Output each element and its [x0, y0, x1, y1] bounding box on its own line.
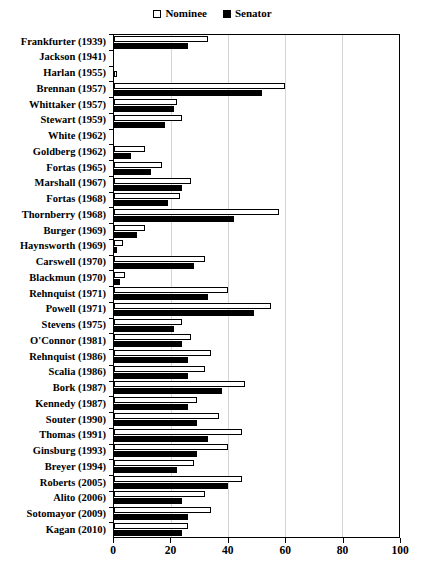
x-axis-tick-label: 0: [110, 545, 116, 557]
bar-senator: [114, 263, 194, 269]
y-axis-label: Souter (1990): [0, 412, 110, 428]
y-axis-label: Breyer (1994): [0, 459, 110, 475]
bar-row: [114, 145, 399, 161]
y-axis-labels: Frankfurter (1939)Jackson (1941)Harlan (…: [0, 34, 110, 538]
y-axis-label: Alito (2006): [0, 491, 110, 507]
bar-chart: Nominee Senator Frankfurter (1939)Jackso…: [0, 0, 425, 583]
legend-swatch-senator-icon: [223, 10, 231, 18]
bar-row: [114, 443, 399, 459]
y-axis-label: Thomas (1991): [0, 428, 110, 444]
bar-nominee: [114, 429, 242, 435]
bar-nominee: [114, 178, 191, 184]
bar-row: [114, 129, 399, 145]
bar-row: [114, 364, 399, 380]
y-axis-label: Haynsworth (1969): [0, 239, 110, 255]
bar-row: [114, 113, 399, 129]
chart-legend: Nominee Senator: [0, 8, 425, 19]
bar-row: [114, 286, 399, 302]
bar-nominee: [114, 334, 191, 340]
bar-senator: [114, 483, 228, 489]
x-axis-tick: [170, 538, 171, 543]
bar-senator: [114, 310, 254, 316]
y-axis-label: Powell (1971): [0, 302, 110, 318]
bar-senator: [114, 247, 117, 253]
bar-nominee: [114, 413, 219, 419]
bar-senator: [114, 530, 182, 536]
bar-senator: [114, 294, 208, 300]
y-axis-label: Frankfurter (1939): [0, 34, 110, 50]
bar-nominee: [114, 303, 271, 309]
bar-nominee: [114, 36, 208, 42]
x-axis-tick-label: 40: [222, 545, 234, 557]
bar-nominee: [114, 476, 242, 482]
bar-nominee: [114, 444, 228, 450]
bar-row: [114, 66, 399, 82]
bar-senator: [114, 216, 234, 222]
y-axis-label: Stevens (1975): [0, 318, 110, 334]
bar-row: [114, 521, 399, 537]
y-axis-label: Kennedy (1987): [0, 396, 110, 412]
bar-row: [114, 255, 399, 271]
bar-nominee: [114, 350, 211, 356]
y-axis-label: White (1962): [0, 129, 110, 145]
legend-label-nominee: Nominee: [165, 8, 207, 19]
bar-nominee: [114, 162, 162, 168]
bar-senator: [114, 373, 188, 379]
bar-senator: [114, 341, 182, 347]
bar-nominee: [114, 507, 211, 513]
y-axis-label: Roberts (2005): [0, 475, 110, 491]
bar-row: [114, 208, 399, 224]
bar-rows: [114, 35, 399, 537]
bar-row: [114, 192, 399, 208]
bar-row: [114, 223, 399, 239]
bar-row: [114, 176, 399, 192]
bar-nominee: [114, 272, 125, 278]
bar-row: [114, 506, 399, 522]
x-axis-tick-label: 100: [391, 545, 408, 557]
y-axis-label: Harlan (1955): [0, 66, 110, 82]
bar-senator: [114, 232, 137, 238]
bar-row: [114, 490, 399, 506]
bar-row: [114, 396, 399, 412]
x-axis-tick-label: 20: [165, 545, 177, 557]
y-axis-label: Brennan (1957): [0, 81, 110, 97]
bar-nominee: [114, 209, 279, 215]
y-axis-label: O'Connor (1981): [0, 333, 110, 349]
bar-senator: [114, 498, 182, 504]
bar-nominee: [114, 319, 182, 325]
y-axis-label: Blackmun (1970): [0, 270, 110, 286]
bar-senator: [114, 451, 197, 457]
x-axis: 020406080100: [113, 538, 400, 568]
plot-area: [113, 34, 400, 538]
bar-senator: [114, 388, 222, 394]
bar-nominee: [114, 287, 228, 293]
y-axis-label: Kagan (2010): [0, 522, 110, 538]
y-axis-label: Sotomayor (2009): [0, 507, 110, 523]
bar-row: [114, 427, 399, 443]
bar-nominee: [114, 240, 123, 246]
bar-row: [114, 317, 399, 333]
x-axis-tick: [113, 538, 114, 543]
bar-nominee: [114, 366, 205, 372]
bar-nominee: [114, 381, 245, 387]
y-axis-label: Goldberg (1962): [0, 144, 110, 160]
bar-senator: [114, 200, 168, 206]
bar-row: [114, 239, 399, 255]
bar-row: [114, 35, 399, 51]
y-axis-label: Carswell (1970): [0, 255, 110, 271]
bar-senator: [114, 420, 197, 426]
x-axis-tick: [228, 538, 229, 543]
bar-row: [114, 270, 399, 286]
bar-nominee: [114, 397, 197, 403]
bar-nominee: [114, 71, 117, 77]
legend-swatch-nominee-icon: [153, 10, 161, 18]
y-axis-label: Marshall (1967): [0, 176, 110, 192]
bar-row: [114, 98, 399, 114]
y-axis-label: Rehnquist (1986): [0, 349, 110, 365]
bar-row: [114, 474, 399, 490]
bar-senator: [114, 514, 188, 520]
bar-nominee: [114, 99, 177, 105]
bar-senator: [114, 279, 120, 285]
bar-senator: [114, 169, 151, 175]
x-axis-tick-label: 60: [279, 545, 291, 557]
